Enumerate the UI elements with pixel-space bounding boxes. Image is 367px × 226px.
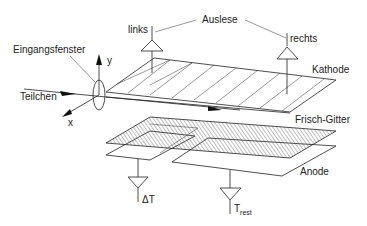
auslese-label: Auslese — [202, 14, 238, 25]
eingangsfenster-leader — [70, 56, 95, 82]
auslese-leader-left — [155, 20, 196, 32]
y-axis-arrow-icon — [96, 54, 102, 65]
delta-t-label: ΔT — [142, 194, 155, 205]
axis-x-label: x — [68, 117, 73, 128]
eingangsfenster-label: Eingangsfenster — [13, 44, 86, 55]
cathode — [106, 58, 336, 112]
detector-diagram: y x Eingangsfenster Teilchen links recht… — [0, 0, 367, 226]
kathode-label: Kathode — [312, 64, 350, 75]
auslese-leader-right — [245, 20, 286, 38]
anode-label: Anode — [300, 166, 329, 177]
rechts-label: rechts — [290, 33, 317, 44]
x-axis-arrow-icon — [62, 109, 72, 117]
t-rest-label: Trest — [234, 203, 252, 216]
teilchen-label: Teilchen — [20, 91, 57, 102]
axis-y-label: y — [107, 55, 112, 66]
frisch-gitter-label: Frisch-Gitter — [295, 114, 351, 125]
links-label: links — [128, 24, 148, 35]
